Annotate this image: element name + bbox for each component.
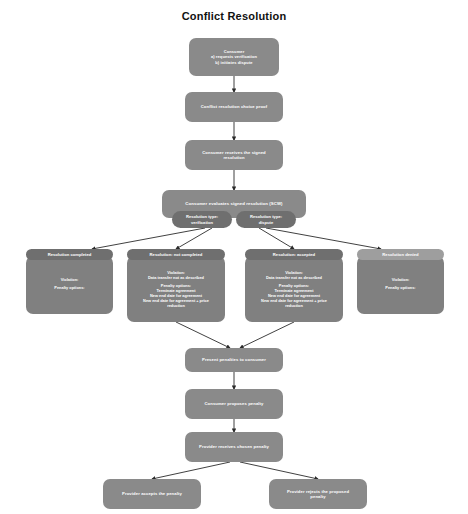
branch-body-resolution-completed[interactable]: Violation: Penalty options: <box>26 256 113 314</box>
node-line: b) initiates dispute <box>193 60 275 65</box>
branch-body-resolution-accepted[interactable]: Violation: Data transfer not as describe… <box>245 256 343 322</box>
node-line: Provider accepts the penalty <box>107 491 197 496</box>
branch-header-label: Resolution: accepted <box>273 252 315 257</box>
node-line: Consumer evaluates signed resolution (SC… <box>166 201 302 207</box>
node-line: penalty <box>273 494 363 499</box>
edge-verification-to-branch1 <box>92 228 205 249</box>
edge-verification-to-branch2 <box>176 228 212 249</box>
edge-provider-to-accepts <box>152 462 230 479</box>
branch-header-resolution-completed[interactable]: Resolution completed <box>26 249 113 260</box>
branch-header-resolution-not-completed[interactable]: Resolution: not completed <box>127 249 225 260</box>
node-consumer-receives[interactable]: Consumer receives the signed resolution <box>185 140 283 170</box>
edge-branch3-to-present <box>240 322 294 348</box>
branch-header-label: Resolution denied <box>382 252 418 257</box>
node-provider-accepts[interactable]: Provider accepts the penalty <box>103 479 201 509</box>
branch-body-spacer <box>385 290 415 293</box>
branch-body-line: Penalty options: <box>385 285 415 290</box>
chip-line: Resolution type: <box>186 214 218 219</box>
branch-body-line: Penalty options: <box>54 285 84 290</box>
node-consumer-proposes[interactable]: Consumer proposes penalty <box>185 389 283 419</box>
chip-line: Resolution type: <box>250 214 282 219</box>
node-present-penalties[interactable]: Present penalties to consumer <box>185 348 283 372</box>
branch-body-resolution-denied[interactable]: Violation: Penalty options: <box>357 256 444 314</box>
branch-body-line: Data transfer not as described <box>261 275 327 280</box>
chip-resolution-type-dispute[interactable]: Resolution type: dispute <box>236 211 296 228</box>
edge-branch2-to-present <box>176 322 230 348</box>
edge-dispute-to-branch4 <box>266 228 381 249</box>
node-consumer-start[interactable]: Consumer a) requests verification b) ini… <box>189 38 279 76</box>
branch-header-resolution-denied[interactable]: Resolution denied <box>357 249 444 260</box>
chip-line: dispute <box>250 220 282 225</box>
edge-provider-to-rejects <box>240 462 318 479</box>
node-line: Present penalties to consumer <box>189 357 279 362</box>
node-line: Consumer proposes penalty <box>189 401 279 406</box>
branch-body-spacer <box>54 290 84 293</box>
branch-header-label: Resolution: not completed <box>150 252 203 257</box>
chip-line: verification <box>186 220 218 225</box>
node-conflict-proof[interactable]: Conflict resolution choice proof <box>185 92 283 122</box>
branch-body-line: reduction <box>143 303 209 308</box>
branch-header-resolution-accepted[interactable]: Resolution: accepted <box>245 249 343 260</box>
branch-body-resolution-not-completed[interactable]: Violation: Data transfer not as describe… <box>127 256 225 322</box>
chip-resolution-type-verification[interactable]: Resolution type: verification <box>172 211 232 228</box>
branch-body-line: reduction <box>261 303 327 308</box>
node-line: resolution <box>189 155 279 160</box>
edge-dispute-to-branch3 <box>259 228 294 249</box>
branch-body-line: Data transfer not as described <box>143 275 209 280</box>
node-line: Conflict resolution choice proof <box>189 104 279 109</box>
node-provider-rejects[interactable]: Provider rejects the proposed penalty <box>269 479 367 509</box>
page-title: Conflict Resolution <box>0 10 468 22</box>
branch-header-label: Resolution completed <box>48 252 92 257</box>
node-provider-receives[interactable]: Provider receives chosen penalty <box>185 432 283 462</box>
flowchart-diagram: Conflict Resolution Consumer a) reques <box>0 0 468 514</box>
node-line: Provider receives chosen penalty <box>189 444 279 449</box>
